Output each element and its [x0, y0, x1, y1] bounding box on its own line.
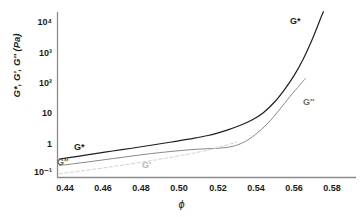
- y-tick-label-5: 10⁻¹: [18, 168, 52, 177]
- x-tick-label-6: 0.56: [274, 184, 314, 193]
- x-tick-label-5: 0.54: [236, 184, 276, 193]
- curve-label-gstor: G′: [142, 161, 151, 170]
- curve-label-gstar-right: G*: [290, 17, 301, 26]
- x-tick-label-2: 0.48: [121, 184, 161, 193]
- curve-label-gstar-left: G*: [74, 143, 85, 152]
- chart-series-group: [59, 12, 323, 174]
- y-axis-title: G*, G′, G″ (Pa): [11, 6, 22, 126]
- y-tick-label-0: 10⁴: [18, 18, 52, 27]
- x-axis-title: ϕ: [0, 198, 363, 210]
- y-tick-label-3: 10: [18, 109, 52, 118]
- x-tick-label-0: 0.44: [45, 184, 85, 193]
- y-tick-label-1: 10³: [18, 49, 52, 58]
- series-line-G: [59, 79, 305, 166]
- y-tick-label-2: 10²: [18, 79, 52, 88]
- x-tick-label-3: 0.50: [159, 184, 199, 193]
- y-tick-label-4: 1: [18, 140, 52, 149]
- x-tick-label-4: 0.52: [198, 184, 238, 193]
- x-tick-label-1: 0.46: [83, 184, 123, 193]
- series-line-G: [59, 12, 323, 159]
- curve-label-gloss-left: G″: [57, 158, 68, 167]
- curve-label-gloss-right: G″: [303, 98, 314, 107]
- x-tick-label-7: 0.58: [312, 184, 352, 193]
- chart-figure: 10⁴ 10³ 10² 10 1 10⁻¹ 0.44 0.46 0.48 0.5…: [0, 0, 363, 217]
